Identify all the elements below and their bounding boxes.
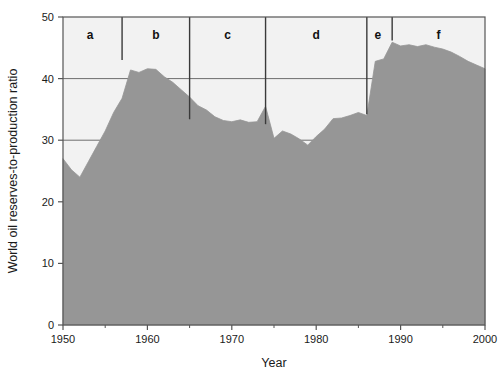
- x-axis-title: Year: [261, 356, 286, 370]
- x-tick-label-1990: 1990: [388, 333, 412, 345]
- y-axis-title: World oil reserves-to-production ratio: [6, 69, 20, 274]
- period-label-e: e: [374, 28, 381, 42]
- y-tick-label-50: 50: [42, 11, 54, 23]
- period-label-a: a: [87, 28, 94, 42]
- reserves-to-production-area-chart: 195019601970198019902000 01020304050 abc…: [0, 0, 503, 377]
- period-label-c: c: [224, 28, 231, 42]
- x-tick-label-1970: 1970: [220, 333, 244, 345]
- x-tick-label-1950: 1950: [51, 333, 75, 345]
- y-tick-label-40: 40: [42, 73, 54, 85]
- y-tick-label-30: 30: [42, 134, 54, 146]
- y-tick-label-0: 0: [48, 319, 54, 331]
- x-tick-label-1960: 1960: [135, 333, 159, 345]
- chart-figure: 195019601970198019902000 01020304050 abc…: [0, 0, 503, 377]
- x-tick-label-2000: 2000: [473, 333, 497, 345]
- y-tick-label-10: 10: [42, 257, 54, 269]
- x-tick-label-1980: 1980: [304, 333, 328, 345]
- period-label-d: d: [313, 28, 320, 42]
- y-tick-label-20: 20: [42, 196, 54, 208]
- period-label-b: b: [152, 28, 159, 42]
